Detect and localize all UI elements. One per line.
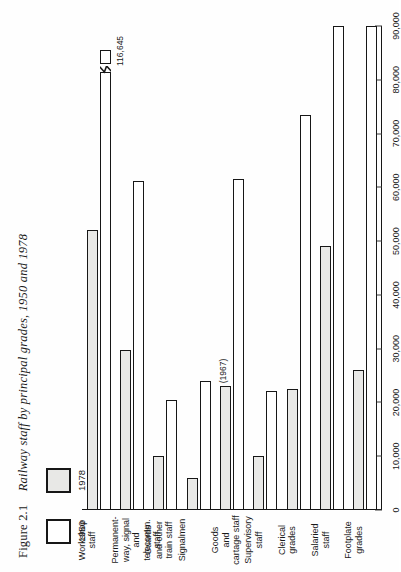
bar-1978 <box>286 389 297 510</box>
category-label: Footplate grades <box>343 514 364 566</box>
legend-item-1978: 1978 <box>46 468 87 493</box>
axis-tick-label: 60,000 <box>391 174 401 202</box>
bar-1950 <box>333 26 344 510</box>
bar-1950 <box>366 26 377 510</box>
bar-1978 <box>253 456 264 510</box>
category-label: Signalmen <box>176 514 187 566</box>
bar-1950 <box>233 179 244 510</box>
rotated-figure: Figure 2.1 Railway staff by principal gr… <box>10 6 390 566</box>
axis-tick-label: 90,000 <box>391 12 401 40</box>
figure-number: Figure 2.1 <box>16 505 30 558</box>
bar-1950 <box>166 400 177 510</box>
bar-1978 <box>320 247 331 511</box>
bar-1950 <box>266 391 277 510</box>
bar-1978 <box>120 350 131 510</box>
bar-1950-broken-end <box>99 50 110 64</box>
annotation-workshop-1950-value: 116,645 <box>114 36 124 66</box>
axis-tick-label: 10,000 <box>391 442 401 470</box>
category-label: Clerical grades <box>276 514 297 566</box>
bar-1978 <box>220 386 231 510</box>
category-label: Goods and cartage staff <box>210 514 242 566</box>
category-label: Permanent- way, signal and telecomm. sta… <box>110 514 163 566</box>
bar-1978 <box>186 478 197 510</box>
axis-tick-label: 80,000 <box>391 66 401 94</box>
figure-caption: Railway staff by principal grades, 1950 … <box>16 234 30 492</box>
axis-tick-label: 20,000 <box>391 389 401 417</box>
figure-title: Figure 2.1 Railway staff by principal gr… <box>16 234 31 558</box>
axis-tick-label: 0 <box>391 507 401 512</box>
bar-1950 <box>199 381 210 510</box>
category-label: Supervisory staff <box>243 514 264 566</box>
axis-tick-label: 70,000 <box>391 120 401 148</box>
legend-swatch-1978 <box>46 468 71 493</box>
axis-break-mark <box>99 62 110 76</box>
bar-1978 <box>353 370 364 510</box>
bar-1978 <box>86 230 97 510</box>
bar-1950 <box>133 181 144 510</box>
bar-1978 <box>153 456 164 510</box>
bar-1950-broken-body <box>99 72 110 510</box>
axis-tick-label: 50,000 <box>391 227 401 255</box>
category-label: Workshop staff <box>76 514 97 566</box>
legend-swatch-1950 <box>46 519 71 544</box>
annotation-goods-1967: (1967) <box>218 359 228 384</box>
bar-1950 <box>299 115 310 510</box>
axis-tick-label: 40,000 <box>391 281 401 309</box>
plot-area: 010,00020,00030,00040,00050,00060,00070,… <box>82 26 382 510</box>
category-label: Salaried staff <box>310 514 331 566</box>
value-axis-line <box>381 26 382 510</box>
axis-tick-label: 30,000 <box>391 335 401 363</box>
